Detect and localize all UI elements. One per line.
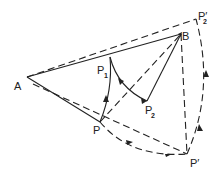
label-P1-subscript: 1 xyxy=(104,72,108,79)
arrow-icon xyxy=(126,140,133,145)
arc-Pprime-to-P2prime xyxy=(187,19,204,154)
dashed-line-A-P2prime xyxy=(27,19,196,77)
line-A-P xyxy=(27,77,100,122)
dashed-line-B-Pprime xyxy=(181,34,187,154)
line-P1-B-segment xyxy=(147,34,181,101)
label-P2-prime-subscript: 2 xyxy=(203,18,207,25)
diagram-canvas: A B P 1 P 2 P P′ P′ 2 xyxy=(0,0,218,179)
label-P-prime: P′ xyxy=(190,157,199,169)
arrow-icon xyxy=(197,124,203,131)
arc-P1-to-P2 xyxy=(110,57,147,101)
label-P: P xyxy=(93,124,100,136)
dashed-line-A-Pprime xyxy=(33,84,187,154)
arc-P-to-Pprime xyxy=(100,122,187,154)
label-P2-subscript: 2 xyxy=(151,112,155,119)
label-B: B xyxy=(182,30,189,42)
arrow-icon xyxy=(165,154,172,157)
label-A: A xyxy=(14,80,22,92)
